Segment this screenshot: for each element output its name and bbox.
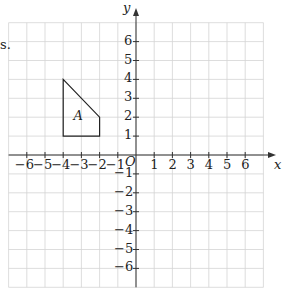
y-tick-label: 2	[124, 108, 132, 123]
y-tick-label: −3	[114, 203, 133, 218]
x-tick-label: 5	[223, 157, 231, 172]
y-tick-label: −5	[114, 241, 133, 256]
x-tick-label: −3	[69, 157, 88, 172]
y-tick-label: 3	[124, 89, 132, 104]
x-tick-label: −4	[51, 157, 70, 172]
y-tick-label: −6	[114, 259, 133, 274]
x-tick-label: 6	[241, 157, 249, 172]
y-tick-label: 1	[124, 127, 132, 142]
x-tick-label: −2	[88, 157, 107, 172]
x-tick-label: −6	[15, 157, 34, 172]
y-tick-label: −2	[114, 184, 133, 199]
x-tick-label: 3	[187, 157, 195, 172]
x-tick-label: 2	[168, 157, 176, 172]
shape-label: A	[73, 108, 82, 123]
y-tick-label: 4	[124, 70, 132, 85]
origin-label: O	[125, 154, 136, 169]
coordinate-grid	[0, 0, 283, 295]
fragment-text: s.	[0, 37, 11, 52]
y-axis-label: y	[123, 0, 130, 15]
x-tick-label: 4	[205, 157, 213, 172]
x-axis-label: x	[274, 157, 281, 172]
y-arrow-icon	[133, 8, 139, 16]
y-tick-label: 6	[124, 33, 132, 48]
x-tick-label: −5	[33, 157, 52, 172]
x-tick-label: 1	[150, 157, 158, 172]
y-tick-label: −4	[114, 222, 133, 237]
y-tick-label: 5	[124, 52, 132, 67]
